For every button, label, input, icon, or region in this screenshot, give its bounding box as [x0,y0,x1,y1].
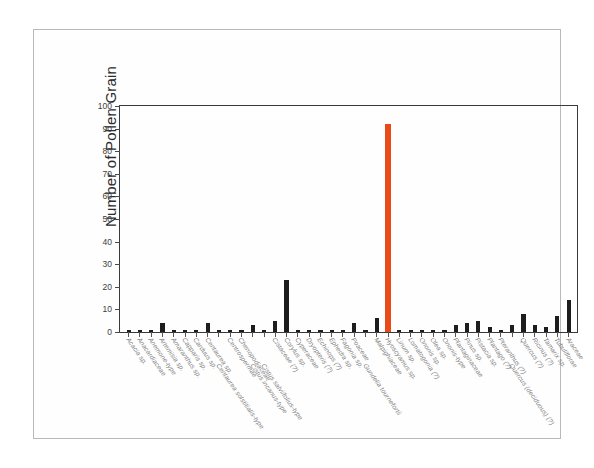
bar-slot [382,106,393,332]
x-label-slot: Fagonia sp. [336,338,347,458]
x-label-slot: Malpighiaceae [370,338,381,458]
x-tick-label: Araceae [565,336,585,361]
x-tick [264,332,265,337]
x-label-slot: Cistus salviifolius-type [257,338,268,458]
bar-slot [157,106,168,332]
x-tick [512,332,513,337]
bar [352,323,356,332]
bar-slot [360,106,371,332]
plot-area: 0102030405060708090100 [119,105,578,333]
bar-slot [484,106,495,332]
bar-slot [191,106,202,332]
x-label-slot: Quercus (deciduous) (?) [506,338,517,458]
x-label-slot: Corylus sp. [280,338,291,458]
bar-slot [304,106,315,332]
bar-slot [495,106,506,332]
bar-slot [270,106,281,332]
bar [454,325,458,332]
x-label-slot: Cistaceae (?) [269,338,280,458]
x-tick [218,332,219,337]
x-label-slot: Ononis-type [438,338,449,458]
bar-slot [394,106,405,332]
x-label-slot: Linum sp. [393,338,404,458]
x-label-slot: Chenopodiaceae [235,338,246,458]
x-label-slot: Quercus (?) [517,338,528,458]
bar-slot [349,106,360,332]
bar-slot [326,106,337,332]
bar-slot [247,106,258,332]
bar-slot [315,106,326,332]
x-label-slot: Pinus sp. [460,338,471,458]
bar-slot [540,106,551,332]
bar [251,325,255,332]
bar [555,316,559,332]
y-tick-label: 0 [84,327,112,337]
y-tick-label: 30 [84,259,112,269]
x-label-slot: Centaurea solstitialis-type [212,338,223,458]
x-label-slot: Olea sp. [427,338,438,458]
x-tick [252,332,253,337]
bar-slot [529,106,540,332]
y-tick-label: 20 [84,282,112,292]
bar [160,323,164,332]
bar-slot [258,106,269,332]
x-label-slot: Centaurea sp. [201,338,212,458]
bar [476,321,480,332]
bar-slot [563,106,574,332]
x-label-slot: Plantago (?) [483,338,494,458]
bar-slot [236,106,247,332]
x-label-slot: Anacardiaceae [133,338,144,458]
y-tick-label: 10 [84,304,112,314]
bar [521,314,525,332]
x-label-slot: Dryopteris (?) [303,338,314,458]
x-label-slot: Capparis sp. [178,338,189,458]
x-axis-labels: Acacia sp.AnacardiaceaeAnemone-typeArtem… [119,338,576,458]
bar-slot [202,106,213,332]
y-tick-label: 50 [84,214,112,224]
bar-slot [168,106,179,332]
bar-slot [371,106,382,332]
x-label-slot: Amaranthus sp. [167,338,178,458]
bar [206,323,210,332]
bar [375,318,379,332]
bar-slot [134,106,145,332]
bar-slot [225,106,236,332]
x-label-slot: Lomatogonia (?) [404,338,415,458]
x-label-slot: Artemisia sp. [156,338,167,458]
bar-slot [416,106,427,332]
x-label-slot: Pteranthus (?) [494,338,505,458]
x-label-slot: Carduus sp. [190,338,201,458]
bar-slot [428,106,439,332]
y-tick-label: 40 [84,237,112,247]
bar [273,321,277,332]
bar [567,300,571,332]
bar [533,325,537,332]
x-label-slot: Poaceae [348,338,359,458]
figure-page: Number of Pollen Grain 01020304050607080… [0,0,594,468]
y-tick-label: 70 [84,169,112,179]
x-label-slot: Echinops (?) [314,338,325,458]
bar-slot [450,106,461,332]
x-label-slot: Hyoscyamus sp. [381,338,392,458]
bar-slot [507,106,518,332]
bar-slot [439,106,450,332]
bar-slot [337,106,348,332]
x-label-slot: Pistacia sp. [472,338,483,458]
x-label-slot: Gundelia tournefortii [359,338,370,458]
bar-slot [179,106,190,332]
x-label-slot: Tubuliflorae [551,338,562,458]
bar-slot [146,106,157,332]
bar-series [120,106,577,332]
x-label-slot: Anemone-type [145,338,156,458]
x-label-slot: Cistus incanus-type [246,338,257,458]
x-label-slot: Plantaginaceae [449,338,460,458]
x-label-slot: Acacia sp. [122,338,133,458]
figure-frame: Number of Pollen Grain 01020304050607080… [33,29,561,439]
y-tick-label: 90 [84,124,112,134]
bar-slot [552,106,563,332]
x-label-slot: Araceae [562,338,573,458]
y-tick-label: 60 [84,191,112,201]
x-label-slot: Ephedra sp. [325,338,336,458]
bar-slot [281,106,292,332]
x-tick [365,332,366,337]
